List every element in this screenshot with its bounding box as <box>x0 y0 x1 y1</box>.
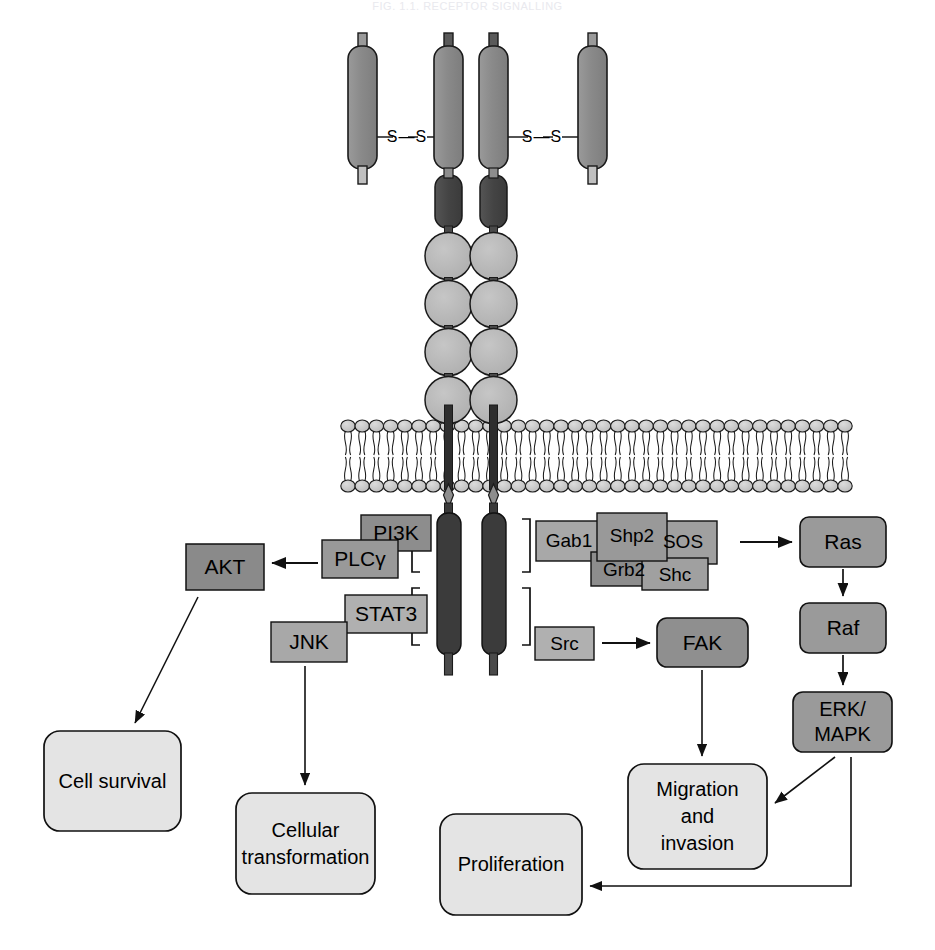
node-fak-box <box>657 618 748 667</box>
node-cellular-transformation-box <box>236 793 375 894</box>
node-erk-mapk-box <box>793 692 892 752</box>
node-raf-box <box>800 603 886 653</box>
ectodomain-bar-1 <box>348 33 377 184</box>
node-ras-box <box>800 517 886 567</box>
left-effectors <box>186 515 594 662</box>
node-src-box <box>535 627 594 660</box>
node-proliferation-box <box>440 814 582 915</box>
receptor-ectodomains <box>348 33 607 184</box>
edge-akt-cell-survival <box>135 597 198 723</box>
node-cell-survival-box <box>44 731 181 831</box>
ectodomain-bar-3 <box>479 33 508 169</box>
node-migration-invasion-box <box>628 764 767 869</box>
adaptor-complex <box>536 513 717 590</box>
figure-canvas: FIG. 1.1. RECEPTOR SIGNALLING <box>0 0 935 950</box>
cytoplasmic-kinase-domains <box>437 513 506 675</box>
pathway-diagram <box>0 0 935 950</box>
node-plcg-box <box>322 540 398 578</box>
plasma-membrane <box>341 420 852 492</box>
node-shc-box <box>642 558 708 590</box>
ectodomain-bar-2 <box>434 33 463 169</box>
node-jnk-box <box>271 622 347 662</box>
node-shp2-box <box>597 513 667 561</box>
outcome-boxes <box>44 731 767 915</box>
node-stat3-box <box>345 595 427 633</box>
ectodomain-bar-4 <box>578 33 607 184</box>
cysteine-rich-domains <box>435 168 507 228</box>
node-akt-box <box>186 544 264 590</box>
edge-erk-migration <box>775 757 835 803</box>
ig-like-domains <box>425 226 517 424</box>
